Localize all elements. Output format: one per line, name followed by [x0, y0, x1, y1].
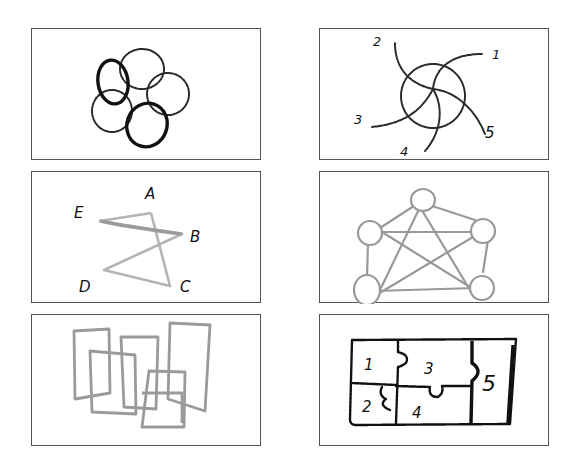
region-label-3: 3 [424, 360, 434, 378]
pentagram-top-edge [100, 221, 182, 234]
edge [483, 240, 488, 272]
edge [420, 207, 470, 290]
vertex-label-c: C [180, 278, 191, 296]
rectangle [142, 371, 185, 427]
divider-2-4 [381, 387, 390, 410]
divider-1-3 [396, 341, 407, 423]
node [358, 221, 382, 245]
node [471, 219, 495, 243]
arm-label-5: 5 [485, 124, 495, 142]
divider-1-2 [351, 383, 396, 385]
divider-5 [471, 341, 478, 423]
divider-3-4 [396, 386, 470, 397]
vertex-label-e: E [74, 204, 84, 222]
region-label-5: 5 [482, 371, 496, 396]
edge [367, 242, 368, 277]
ring-bold-bottom [121, 97, 174, 152]
puzzle-regions-sketch: 1 2 3 4 5 [320, 315, 550, 447]
arm-2 [395, 43, 433, 89]
arm-label-2: 2 [373, 34, 381, 49]
arm-label-3: 3 [354, 112, 362, 127]
region-label-4: 4 [412, 404, 422, 422]
rectangle [121, 337, 158, 409]
edge [380, 207, 420, 290]
arm-label-4: 4 [400, 144, 408, 159]
rectangle [90, 351, 136, 414]
panel-overlapping-rectangles [31, 314, 261, 446]
panel-pentagram-letters: A B C D E [31, 171, 261, 303]
region-label-2: 2 [362, 398, 372, 416]
overlapping-rectangles-sketch [32, 315, 262, 447]
node [354, 275, 380, 304]
edge [375, 288, 475, 291]
ring-right [147, 73, 189, 115]
panel-interlocking-rings [31, 28, 261, 160]
vertex-label-a: A [144, 185, 155, 203]
region-label-1: 1 [364, 356, 374, 374]
arm-label-1: 1 [492, 47, 500, 62]
interlocking-rings-sketch [32, 29, 262, 161]
rectangle [168, 323, 210, 411]
spiral-arms-sketch: 1 2 3 4 5 [320, 29, 550, 161]
node [411, 189, 435, 211]
panel-spiral-arms: 1 2 3 4 5 [319, 28, 549, 160]
vertex-label-d: D [79, 278, 91, 296]
arm-1 [433, 54, 482, 89]
vertex-label-b: B [190, 228, 200, 246]
pentagram-sketch: A B C D E [32, 172, 262, 304]
complete-graph-sketch [320, 172, 550, 304]
panel-puzzle-regions: 1 2 3 4 5 [319, 314, 549, 446]
node [470, 276, 494, 300]
panel-complete-graph [319, 171, 549, 303]
